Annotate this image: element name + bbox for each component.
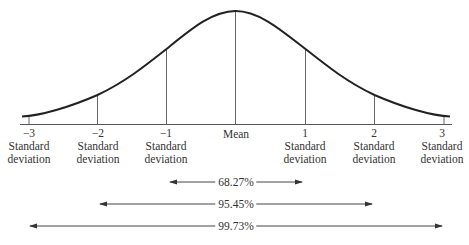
tick-text-line2: deviation [131, 153, 201, 166]
tick-value: −3 [0, 127, 64, 140]
tick-text-line1: Standard [0, 140, 64, 153]
tick-text-line1: Standard [339, 140, 409, 153]
tick-text-line2: deviation [407, 153, 469, 166]
tick-label-minus-2: −2 Standard deviation [63, 127, 133, 166]
tick-label-minus-3: −3 Standard deviation [0, 127, 64, 166]
tick-label-plus-2: 2 Standard deviation [339, 127, 409, 166]
tick-text-line2: deviation [339, 153, 409, 166]
tick-text-line1: Standard [131, 140, 201, 153]
tick-text-line2: deviation [0, 153, 64, 166]
tick-value: −2 [63, 127, 133, 140]
tick-text-line2: deviation [270, 153, 340, 166]
tick-label-mean: Mean [201, 128, 271, 141]
tick-text-mean: Mean [201, 128, 271, 141]
range-label-95: 95.45% [215, 198, 256, 210]
tick-text-line1: Standard [63, 140, 133, 153]
range-label-99: 99.73% [215, 220, 256, 232]
tick-text-line1: Standard [270, 140, 340, 153]
tick-label-plus-3: 3 Standard deviation [407, 127, 469, 166]
tick-value: 3 [407, 127, 469, 140]
tick-text-line2: deviation [63, 153, 133, 166]
range-label-68: 68.27% [215, 176, 256, 188]
tick-text-line1: Standard [407, 140, 469, 153]
tick-label-minus-1: −1 Standard deviation [131, 127, 201, 166]
tick-value: 2 [339, 127, 409, 140]
tick-value: −1 [131, 127, 201, 140]
tick-label-plus-1: 1 Standard deviation [270, 127, 340, 166]
tick-value: 1 [270, 127, 340, 140]
